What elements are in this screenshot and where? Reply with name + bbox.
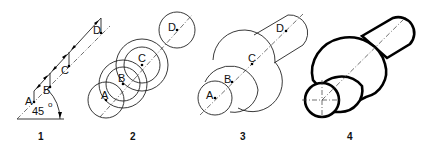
point-a-dot bbox=[33, 101, 36, 104]
point-c-label: C bbox=[61, 64, 69, 76]
panel-number-3: 3 bbox=[240, 131, 246, 142]
point-c-label: C bbox=[138, 52, 146, 64]
panel-number-1: 1 bbox=[38, 131, 44, 142]
point-a-label: A bbox=[101, 89, 109, 101]
panel-number-2: 2 bbox=[130, 131, 136, 142]
point-c-label: C bbox=[248, 52, 256, 64]
point-b-label: B bbox=[118, 72, 125, 84]
point-c-dot bbox=[141, 64, 144, 67]
panel-4: 4 bbox=[302, 16, 414, 142]
panel-1: A B C D 45 o 1 bbox=[17, 18, 110, 142]
point-d-label: D bbox=[168, 21, 176, 33]
arrow-icon bbox=[43, 75, 48, 80]
point-d-label: D bbox=[276, 22, 284, 34]
point-b-label: B bbox=[43, 84, 50, 96]
point-d-label: D bbox=[93, 24, 101, 36]
point-d-dot bbox=[176, 29, 179, 32]
angle-arrow-icon bbox=[58, 112, 62, 118]
point-a-label: A bbox=[206, 89, 214, 101]
point-a-dot bbox=[214, 97, 217, 100]
angle-degree-symbol: o bbox=[48, 100, 53, 109]
panel-3: A B C D 3 bbox=[198, 14, 308, 142]
angle-label: 45 bbox=[32, 105, 44, 117]
point-d-dot bbox=[285, 30, 288, 33]
dimension-line bbox=[34, 18, 101, 91]
diagram-canvas: A B C D 45 o 1 A B C D 2 bbox=[0, 0, 427, 148]
point-b-label: B bbox=[224, 73, 231, 85]
panel-number-4: 4 bbox=[347, 131, 353, 142]
cylinder-c-outline bbox=[213, 30, 282, 112]
